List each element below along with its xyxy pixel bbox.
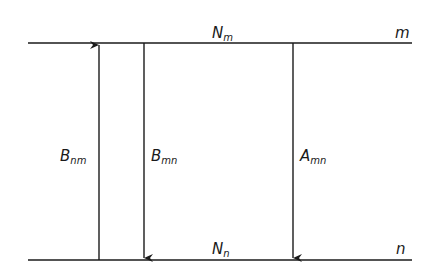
upper-level-name: m: [395, 24, 410, 42]
energy-level-diagram: Nm m Nn n Bnm Bmn Amn: [0, 0, 438, 278]
lower-level-name: n: [396, 240, 406, 258]
absorption-coefficient-label: Bnm: [60, 147, 87, 166]
stimulated-emission-coefficient-label: Bmn: [151, 147, 177, 166]
spontaneous-emission-coefficient-label: Amn: [299, 147, 326, 166]
lower-population-label: Nn: [212, 240, 230, 259]
upper-population-label: Nm: [212, 24, 233, 43]
